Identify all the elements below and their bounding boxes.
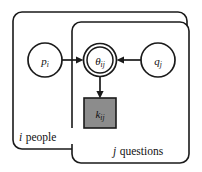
node-theta-subscript: ij [101, 59, 105, 68]
node-q-subscript: j [159, 59, 162, 68]
plate-questions-text: questions [120, 145, 164, 158]
plate-notation-diagram: pi θij qj kij [0, 0, 202, 172]
plate-questions [72, 22, 189, 163]
plate-people-index: i [19, 131, 22, 143]
node-k-subscript: ij [100, 112, 104, 121]
plate-questions-label-group: jquestions [110, 142, 186, 158]
plate-questions-label: jquestions [111, 145, 164, 158]
node-p-subscript: i [47, 59, 49, 68]
plate-diagram-canvas: pi θij qj kij [0, 0, 202, 172]
plate-questions-rect [72, 22, 189, 163]
node-theta[interactable]: θij [84, 44, 117, 77]
node-q[interactable]: qj [141, 43, 175, 77]
plate-people-label-group: ipeople [16, 128, 78, 144]
node-k-observed[interactable]: kij [84, 98, 116, 128]
node-p[interactable]: pi [28, 43, 62, 77]
plate-people-text: people [26, 131, 57, 144]
